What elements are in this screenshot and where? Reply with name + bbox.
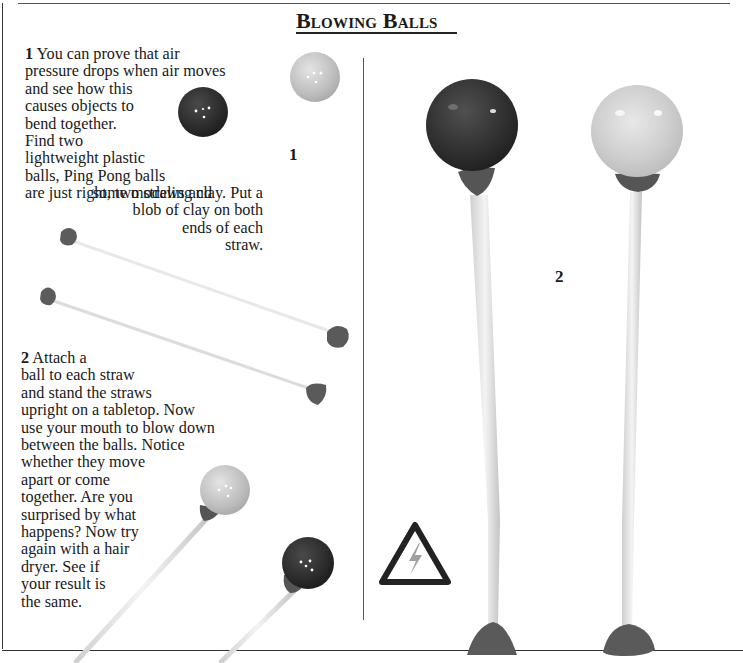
light-ball-standing bbox=[591, 85, 683, 656]
illustrations bbox=[0, 0, 743, 663]
dark-ball-small bbox=[178, 87, 228, 137]
straw-with-clay-1 bbox=[60, 228, 349, 348]
electrical-hazard-warning-icon bbox=[379, 521, 451, 587]
light-ball-on-straw bbox=[75, 465, 250, 663]
straw-with-clay-2 bbox=[40, 288, 326, 406]
dark-ball-on-straw bbox=[220, 537, 334, 663]
light-ball-small bbox=[290, 52, 340, 102]
